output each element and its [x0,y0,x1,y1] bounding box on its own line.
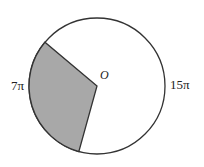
unshaded-arc-label: 15π [170,77,190,92]
shaded-sector [29,42,97,151]
circle-sector-diagram: O 7π 15π [0,0,204,167]
center-label: O [100,68,109,82]
shaded-arc-label: 7π [11,78,25,93]
